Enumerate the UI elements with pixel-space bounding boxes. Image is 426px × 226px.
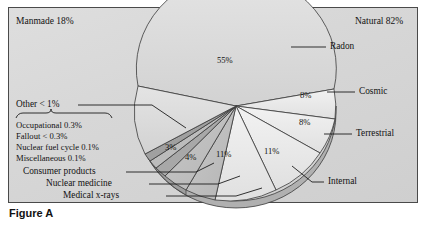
callout-terrestrial[interactable]: Terrestrial xyxy=(356,128,394,138)
callout-radon[interactable]: Radon xyxy=(330,41,354,51)
slice-label-internal: 11% xyxy=(264,147,279,156)
figure-root: Manmade 18% Natural 82% Radon Cosmic Ter… xyxy=(0,0,426,226)
callout-medical-xrays[interactable]: Medical x-rays xyxy=(63,190,119,200)
pie-slices xyxy=(134,0,336,201)
figure-caption: Figure A xyxy=(9,207,53,219)
callout-other[interactable]: Other < 1% xyxy=(16,99,59,109)
slice-label-consumer-products: 3% xyxy=(165,143,176,152)
callout-nuclear-medicine[interactable]: Nuclear medicine xyxy=(46,178,112,188)
other-item-miscellaneous: Miscellaneous 0.1% xyxy=(16,154,86,163)
other-item-fallout: Fallout < 0.3% xyxy=(16,132,67,141)
other-item-nuclear-fuel-cycle: Nuclear fuel cycle 0.1% xyxy=(16,143,99,152)
callout-cosmic[interactable]: Cosmic xyxy=(359,86,387,96)
slice-label-medical-xrays: 11% xyxy=(216,150,231,159)
slice-label-cosmic: 8% xyxy=(300,91,311,100)
slice-label-nuclear-medicine: 4% xyxy=(185,153,196,162)
callout-consumer-products[interactable]: Consumer products xyxy=(23,166,96,176)
callout-internal[interactable]: Internal xyxy=(328,176,357,186)
slice-label-terrestrial: 8% xyxy=(299,118,310,127)
slice-label-radon: 55% xyxy=(217,56,233,65)
header-manmade: Manmade 18% xyxy=(16,16,74,26)
header-natural: Natural 82% xyxy=(355,16,403,26)
other-bracket xyxy=(16,109,112,118)
other-item-occupational: Occupational 0.3% xyxy=(16,121,82,130)
